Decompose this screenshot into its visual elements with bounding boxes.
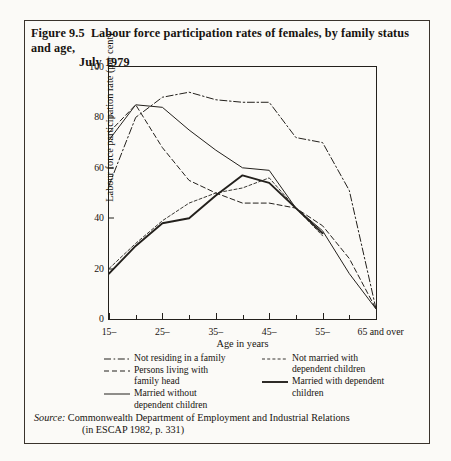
y-tick-label: 60 (70, 163, 104, 173)
legend-column-right: Not married withdependent childrenMarrie… (262, 352, 412, 399)
source-line2: (in ESCAP 1982, p. 331) (82, 424, 424, 436)
legend-swatch-dashed-icon (104, 369, 130, 372)
legend-label-cont: dependent children (292, 363, 412, 374)
legend-swatch-solid-thin-icon (104, 392, 130, 395)
axes-frame: 02040608010015–25–35–45–55–65 and over (108, 66, 377, 320)
legend-line-swatch (104, 357, 130, 361)
legend-line-swatch (104, 392, 130, 396)
legend-swatch-dash-dot-icon (104, 357, 130, 360)
legend-swatch-fine-dashed-icon (262, 357, 288, 360)
legend-line-swatch (262, 357, 288, 361)
legend-label-cont: dependent children (134, 399, 254, 410)
legend-item: Married with dependentchildren (262, 375, 412, 398)
source-label: Source: (34, 412, 65, 423)
legend-label: Married without (134, 387, 254, 398)
y-tick-label: 80 (70, 112, 104, 122)
legend-label: Married with dependent (292, 375, 412, 386)
figure-page: Figure 9.5 Labour force participation ra… (0, 0, 451, 461)
x-tick-mark-minor (189, 315, 190, 319)
legend-swatch-solid-thick-icon (262, 380, 288, 383)
x-tick-label: 65 and over (358, 326, 404, 337)
x-tick-label: 45– (262, 326, 277, 337)
series-line (109, 105, 376, 309)
y-tick-label: 40 (70, 213, 104, 223)
x-tick-mark-minor (136, 315, 137, 319)
x-tick-mark (109, 313, 110, 319)
x-tick-mark (162, 313, 163, 319)
legend-label: Not married with (292, 352, 412, 363)
legend-item: Married withoutdependent children (104, 387, 254, 410)
x-tick-mark-minor (349, 315, 350, 319)
x-tick-mark (216, 313, 217, 319)
x-axis-label: Age in years (108, 338, 377, 349)
series-line (109, 175, 323, 273)
series-line (109, 178, 323, 269)
y-tick-label: 0 (70, 314, 104, 324)
y-tick-mark (109, 268, 114, 269)
legend-line-swatch (262, 380, 288, 384)
legend-label-cont: children (292, 387, 412, 398)
legend-item: Persons living withfamily head (104, 364, 254, 387)
legend-item: Not residing in a family (104, 352, 254, 363)
x-tick-mark (376, 313, 377, 319)
x-tick-mark (269, 313, 270, 319)
y-tick-label: 100 (70, 62, 104, 72)
series-lines (109, 67, 376, 319)
source-line1: Commonwealth Department of Employment an… (68, 412, 350, 423)
legend-item: Not married withdependent children (262, 352, 412, 375)
legend-column-left: Not residing in a familyPersons living w… (104, 352, 254, 411)
legend-label: Not residing in a family (134, 352, 254, 363)
series-line (109, 105, 376, 309)
legend-label-cont: family head (134, 375, 254, 386)
series-line (109, 92, 376, 309)
x-tick-mark-minor (243, 315, 244, 319)
legend-line-swatch (104, 369, 130, 373)
x-tick-label: 25– (155, 326, 170, 337)
y-axis-label: Labour force participation rate (per cen… (104, 3, 115, 233)
x-tick-label: 15– (102, 326, 117, 337)
x-tick-mark-minor (296, 315, 297, 319)
x-tick-label: 35– (208, 326, 223, 337)
x-tick-mark (323, 313, 324, 319)
y-tick-label: 20 (70, 264, 104, 274)
legend-label: Persons living with (134, 364, 254, 375)
x-tick-label: 55– (315, 326, 330, 337)
source-note: Source: Commonwealth Department of Emplo… (34, 412, 424, 437)
